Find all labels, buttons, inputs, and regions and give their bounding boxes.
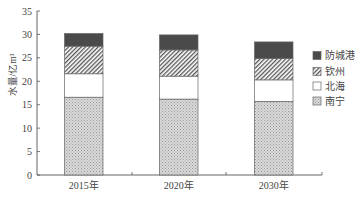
bar-segment-南宁 bbox=[160, 99, 199, 175]
legend-label: 南宁 bbox=[325, 95, 345, 107]
y-tick-label: 0 bbox=[27, 170, 32, 181]
bar-segment-防城港 bbox=[160, 35, 199, 50]
y-tick-label: 10 bbox=[22, 123, 32, 134]
y-tick-label: 30 bbox=[22, 29, 32, 40]
bar-2015年 bbox=[65, 33, 104, 175]
y-tick-label: 15 bbox=[22, 99, 32, 110]
bar-2030年 bbox=[255, 42, 294, 175]
x-tick-label: 2015年 bbox=[69, 179, 99, 191]
stacked-bar-chart: 水量/亿m³ 05101520253035 2015年2020年2030年 防城… bbox=[0, 0, 362, 199]
legend-label: 北海 bbox=[325, 80, 345, 92]
bar-segment-钦州 bbox=[160, 50, 199, 76]
bar-segment-北海 bbox=[255, 80, 294, 102]
bars bbox=[65, 33, 294, 175]
y-tick-label: 35 bbox=[22, 6, 32, 17]
x-tick-label: 2020年 bbox=[164, 179, 194, 191]
legend-swatch bbox=[313, 97, 321, 105]
bar-segment-钦州 bbox=[65, 46, 104, 74]
bar-segment-钦州 bbox=[255, 58, 294, 80]
legend-label: 钦州 bbox=[325, 66, 345, 77]
bar-2020年 bbox=[160, 35, 199, 175]
x-tick-label: 2030年 bbox=[259, 179, 289, 191]
y-tick-label: 5 bbox=[27, 146, 32, 157]
legend-item: 钦州 bbox=[313, 66, 345, 77]
y-axis-label: 水量/亿m³ bbox=[7, 53, 18, 96]
y-tick-label: 25 bbox=[22, 52, 32, 63]
legend-swatch bbox=[313, 68, 321, 76]
bar-segment-南宁 bbox=[255, 101, 294, 175]
bar-segment-防城港 bbox=[65, 33, 104, 46]
y-axis-title: 水量/亿m³ bbox=[7, 53, 18, 96]
legend-swatch bbox=[313, 82, 321, 90]
bar-segment-南宁 bbox=[65, 97, 104, 175]
bar-segment-北海 bbox=[65, 74, 104, 97]
legend-swatch bbox=[313, 52, 321, 60]
legend-label: 防城港 bbox=[325, 49, 355, 61]
legend-item: 防城港 bbox=[313, 49, 355, 61]
y-axis: 05101520253035 bbox=[22, 6, 40, 181]
legend-item: 北海 bbox=[313, 80, 345, 92]
legend-item: 南宁 bbox=[313, 95, 345, 107]
bar-segment-北海 bbox=[160, 76, 199, 99]
bar-segment-防城港 bbox=[255, 42, 294, 58]
y-tick-label: 20 bbox=[22, 76, 32, 87]
legend: 防城港钦州北海南宁 bbox=[313, 49, 355, 107]
